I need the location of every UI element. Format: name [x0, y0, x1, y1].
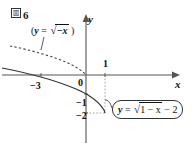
- solid-tail: − 2: [164, 104, 177, 115]
- tick-label-neg-1: −1: [76, 97, 87, 108]
- plot-canvas: [0, 0, 196, 148]
- leader-line-dashed-label: [41, 37, 44, 50]
- x-axis: [2, 72, 180, 79]
- tick-label-origin: 0: [78, 77, 83, 88]
- paren-close: ): [71, 25, 74, 36]
- dashed-lhs: y: [34, 25, 38, 36]
- curve-dashed-sqrt-neg-x: [10, 46, 86, 75]
- y-axis: [83, 14, 90, 143]
- y-axis-label: y: [88, 13, 93, 25]
- solid-lhs: y: [118, 104, 122, 115]
- tick-label-neg-2: −2: [76, 110, 87, 121]
- tick-label-neg-3: −3: [30, 80, 41, 91]
- tick-marks: [41, 73, 105, 113]
- dashed-radicand: −x: [55, 24, 68, 36]
- x-axis-label: x: [175, 78, 181, 90]
- dashed-equals: =: [41, 25, 47, 36]
- solid-curve-equation-box: y = √1 − x − 2: [112, 100, 183, 119]
- dashed-radical: √−x: [49, 24, 68, 36]
- figure-panel: 図6 x y: [0, 0, 196, 148]
- tick-label-1: 1: [103, 58, 108, 69]
- solid-radical: √1 − x: [133, 102, 162, 116]
- solid-radicand: 1 − x: [139, 102, 162, 116]
- solid-equals: =: [125, 104, 131, 115]
- dashed-curve-equation-label: (y = √−x ): [31, 24, 74, 36]
- leader-connector-solid-label: [105, 100, 112, 108]
